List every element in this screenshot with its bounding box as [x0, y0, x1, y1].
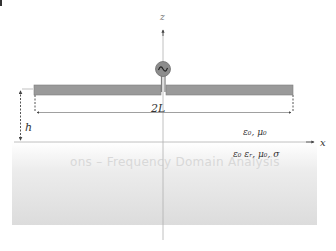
- diagram-graphics: [0, 0, 336, 251]
- upper-medium-label: ε₀, μ₀: [243, 127, 267, 137]
- x-axis-label: x: [320, 137, 326, 148]
- height-label: h: [25, 121, 32, 134]
- right-dipole-arm: [166, 85, 293, 95]
- dipole-antenna: [34, 76, 293, 95]
- length-label: 2L: [151, 102, 165, 115]
- lower-medium-label: ε₀ εᵣ, μ₀, σ: [233, 149, 279, 159]
- z-axis-label: z: [160, 12, 165, 22]
- ac-source-icon: [156, 62, 171, 77]
- left-dipole-arm: [34, 85, 161, 95]
- dipole-diagram: ons – Frequency Domain Analysis: [0, 0, 336, 251]
